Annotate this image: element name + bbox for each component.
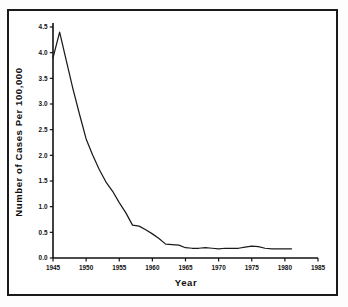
y-tick-label: 0.0 <box>39 254 48 261</box>
y-tick-label: 4.5 <box>39 23 48 30</box>
x-tick-label: 1960 <box>145 264 160 271</box>
chart-canvas: 0.00.51.01.52.02.53.03.54.04.5 194519501… <box>0 0 348 307</box>
x-axis-tick-labels: 194519501955196019651970197519801985 <box>46 264 326 271</box>
x-tick-label: 1980 <box>278 264 293 271</box>
y-axis-tick-labels: 0.00.51.01.52.02.53.03.54.04.5 <box>39 23 48 261</box>
x-tick-label: 1950 <box>79 264 94 271</box>
y-tick-label: 4.0 <box>39 49 48 56</box>
y-tick-label: 1.0 <box>39 203 48 210</box>
x-tick-label: 1955 <box>112 264 127 271</box>
y-tick-label: 2.5 <box>39 126 48 133</box>
x-tick-label: 1945 <box>46 264 61 271</box>
line-chart: 0.00.51.01.52.02.53.03.54.04.5 194519501… <box>0 0 348 307</box>
x-tick-label: 1965 <box>178 264 193 271</box>
data-series-line <box>53 32 292 249</box>
x-tick-label: 1970 <box>212 264 227 271</box>
x-tick-label: 1985 <box>311 264 326 271</box>
y-tick-label: 3.0 <box>39 100 48 107</box>
x-axis-title: Year <box>175 277 197 288</box>
x-tick-label: 1975 <box>245 264 260 271</box>
y-axis-title: Number of Cases Per 100,000 <box>13 67 24 216</box>
y-tick-label: 2.0 <box>39 152 48 159</box>
chart-page: 0.00.51.01.52.02.53.03.54.04.5 194519501… <box>0 0 348 307</box>
y-tick-label: 3.5 <box>39 75 48 82</box>
y-tick-label: 1.5 <box>39 177 48 184</box>
y-tick-label: 0.5 <box>39 229 48 236</box>
